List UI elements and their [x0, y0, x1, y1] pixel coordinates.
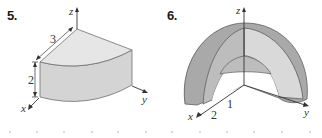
y-axis-label: y — [141, 93, 147, 105]
outer-radius-label: 2 — [211, 108, 217, 122]
dotted-separator — [0, 128, 322, 136]
dimension-arrow-icon — [33, 62, 37, 67]
dimension-arrow-icon — [33, 92, 37, 97]
spherical-shell-diagram: z y x 1 2 — [161, 0, 322, 138]
y-axis-label: y — [303, 106, 309, 118]
radius-label: 3 — [50, 32, 56, 46]
z-axis-arrow-icon — [242, 7, 246, 12]
y-axis — [132, 86, 144, 91]
z-axis-label: z — [68, 5, 74, 17]
x-axis-arrow-icon — [196, 112, 202, 118]
x-axis-label: x — [20, 102, 26, 114]
quarter-cylinder-diagram: z y x 3 2 — [0, 0, 161, 138]
height-label: 2 — [28, 73, 34, 87]
z-axis-arrow-icon — [75, 7, 79, 12]
z-axis-label: z — [235, 4, 241, 16]
figure-5: 5. z y x 3 2 — [0, 0, 161, 138]
x-axis — [31, 98, 39, 106]
x-axis-label: x — [187, 110, 193, 122]
inner-radius-label: 1 — [227, 97, 233, 111]
figure-6: 6. z y x 1 2 — [161, 0, 322, 138]
